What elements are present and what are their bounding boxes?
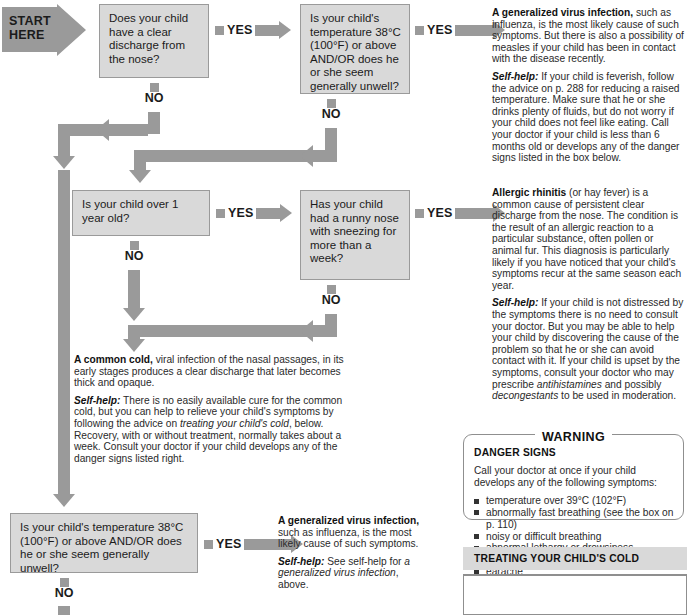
connector-v-leftspine: [58, 170, 70, 496]
outcome-common-cold: A common cold, viral infection of the na…: [74, 354, 362, 464]
virus-description: A generalized virus infection, such as i…: [492, 7, 685, 65]
outcome-generalized-virus: A generalized virus infection, such as i…: [492, 7, 685, 164]
no-connector-4: NO: [311, 285, 351, 307]
list-item: abnormally fast breathing (see the box o…: [474, 507, 679, 531]
no-connector-3: NO: [114, 241, 154, 263]
danger-signs-heading: DANGER SIGNS: [474, 447, 679, 458]
yes-label: YES: [228, 207, 254, 220]
start-line-2: HERE: [9, 29, 51, 43]
list-item: noisy or difficult breathing: [474, 531, 679, 543]
connector-v-q3no: [128, 270, 140, 310]
connector-v-leftspine-top: [58, 124, 70, 158]
question-box-1[interactable]: Does your child have a clear discharge f…: [99, 4, 209, 78]
connector-arrowhead-q2no: [300, 145, 313, 167]
connector-arrowhead-leftspine: [53, 156, 75, 169]
cold-selfhelp: Self-help: There is no easily available …: [74, 395, 362, 465]
virus-selfhelp: Self-help: If your child is feverish, fo…: [492, 71, 685, 164]
yes-connector-3: YES: [216, 204, 292, 222]
cold-lead: A common cold,: [74, 354, 153, 365]
virus-selfhelp-body: If your child is feverish, follow the ad…: [492, 71, 679, 163]
rhinitis-selfhelp-3: to be used in moderation.: [558, 390, 676, 401]
warning-title-text: WARNING: [535, 430, 612, 444]
yes-square-icon: [415, 26, 424, 35]
virus2-selfhelp: Self-help: See self-help for a generaliz…: [278, 556, 428, 591]
connector-v-toq3: [134, 150, 146, 172]
yes-square-icon: [216, 209, 225, 218]
list-item: temperature over 39°C (102°F): [474, 495, 679, 507]
rhinitis-selfhelp-1: If your child is not distressed by the s…: [492, 297, 683, 389]
treating-cold-panel: [463, 576, 687, 615]
rhinitis-body: (or hay fever) is a common cause of pers…: [492, 187, 681, 291]
virus2-lead: A generalized virus infection,: [278, 515, 419, 526]
no-label: NO: [311, 294, 351, 307]
connector-arrowhead-q3no: [123, 308, 145, 321]
yes-label: YES: [216, 538, 242, 551]
arrow-head-icon: [280, 204, 292, 222]
yes-label: YES: [427, 24, 453, 37]
yes-square-icon: [215, 26, 224, 35]
question-1-text: Does your child have a clear discharge f…: [109, 12, 188, 65]
arrow-head-icon: [279, 21, 291, 39]
connector-arrowhead-q1no: [96, 119, 109, 141]
rhinitis-lead: Allergic rhinitis: [492, 187, 566, 198]
virus2-selfhelp-1: See self-help for: [324, 556, 404, 567]
yes-square-icon: [204, 540, 213, 549]
question-box-2[interactable]: Is your child's temperature 38°C (100°F)…: [300, 4, 410, 94]
question-2-text: Is your child's temperature 38°C (100°F)…: [310, 12, 401, 92]
no-label: NO: [44, 587, 84, 600]
selfhelp-label: Self-help:: [278, 556, 324, 567]
start-here-arrow: START HERE: [2, 4, 86, 56]
virus2-body: such as influenza, is the most likely ca…: [278, 527, 418, 550]
start-line-1: START: [9, 15, 51, 29]
connector-v-q5no: [58, 606, 70, 615]
treating-cold-title: TREATING YOUR CHILD'S COLD: [474, 553, 639, 564]
rhinitis-description: Allergic rhinitis (or hay fever) is a co…: [492, 187, 685, 291]
question-5-text: Is your child's temperature 38°C (100°F)…: [20, 521, 183, 574]
connector-v-q1no: [148, 112, 160, 134]
no-label: NO: [311, 108, 351, 121]
cold-description: A common cold, viral infection of the na…: [74, 354, 362, 389]
selfhelp-label: Self-help:: [74, 395, 120, 406]
question-4-text: Has your child had a runny nose with sne…: [310, 198, 399, 264]
question-box-5[interactable]: Is your child's temperature 38°C (100°F)…: [10, 513, 198, 573]
yes-square-icon: [415, 209, 424, 218]
no-connector-2: NO: [311, 99, 351, 121]
rhinitis-selfhelp-2: and possibly: [602, 379, 661, 390]
no-label: NO: [134, 92, 174, 105]
question-3-text: Is your child over 1 year old?: [82, 198, 179, 224]
cold-em-treating: treating your child's cold: [180, 418, 289, 429]
virus2-description: A generalized virus infection, such as i…: [278, 515, 428, 550]
connector-arrowhead-q4no: [300, 320, 313, 342]
arrow-shaft: [255, 25, 279, 36]
connector-arrowhead-leftspine-bottom: [53, 494, 75, 507]
arrow-shaft: [256, 208, 280, 219]
selfhelp-label: Self-help:: [492, 297, 538, 308]
outcome-allergic-rhinitis: Allergic rhinitis (or hay fever) is a co…: [492, 187, 685, 402]
danger-signs-intro: Call your doctor at once if your child d…: [474, 465, 679, 488]
connector-arrowhead-tocold: [123, 339, 145, 352]
yes-label: YES: [427, 207, 453, 220]
no-connector-1: NO: [134, 83, 174, 105]
rhinitis-em-antihistamines: antihistamines: [537, 379, 602, 390]
start-here-text: START HERE: [9, 15, 51, 42]
connector-arrowhead-toq3: [129, 170, 151, 183]
selfhelp-label: Self-help:: [492, 71, 538, 82]
treating-cold-header: TREATING YOUR CHILD'S COLD: [463, 547, 687, 570]
arrow-shaft: [455, 25, 493, 36]
no-label: NO: [114, 250, 154, 263]
virus-lead: A generalized virus infection,: [492, 7, 633, 18]
rhinitis-em-decongestants: decongestants: [492, 390, 558, 401]
question-box-4[interactable]: Has your child had a runny nose with sne…: [300, 190, 410, 280]
no-connector-5: NO: [44, 578, 84, 600]
question-box-3[interactable]: Is your child over 1 year old?: [72, 190, 210, 236]
yes-connector-1: YES: [215, 21, 291, 39]
arrow-shaft: [455, 208, 493, 219]
rhinitis-selfhelp: Self-help: If your child is not distress…: [492, 297, 685, 401]
warning-title: WARNING: [463, 427, 684, 445]
outcome-generalized-virus-2: A generalized virus infection, such as i…: [278, 515, 428, 591]
yes-label: YES: [227, 24, 253, 37]
